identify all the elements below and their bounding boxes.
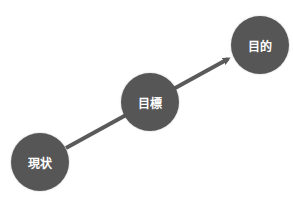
node-current-state: 現状 [11,133,69,191]
node-goal: 目標 [121,73,179,131]
node-purpose: 目的 [231,16,289,74]
node-label: 現状 [28,154,53,171]
node-label: 目標 [138,94,163,111]
node-label: 目的 [248,37,273,54]
